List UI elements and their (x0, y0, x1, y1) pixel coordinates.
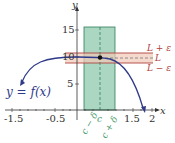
c-label: c (97, 114, 102, 124)
x-tick-label: 2 (149, 113, 155, 124)
y-axis-label: y (71, 0, 78, 10)
curve-right-arrow-icon (141, 106, 146, 113)
x-tick-label: -1.5 (4, 113, 23, 124)
x-axis-label: x (160, 105, 166, 116)
y-tick-label: 5 (67, 78, 73, 89)
limit-label: L (154, 53, 161, 63)
y-tick-label: 10 (62, 51, 75, 62)
limit-point (98, 55, 102, 59)
function-curve (22, 57, 143, 108)
y-tick-label: 15 (62, 24, 75, 35)
epsilon-delta-diagram: -1.5 -0.5 1.5 2 15 10 5 x y y = f(x) L +… (0, 0, 175, 143)
x-tick-label: -0.5 (46, 113, 65, 124)
function-label: y = f(x) (5, 85, 51, 99)
x-tick-label: 1.5 (124, 113, 140, 124)
epsilon-band (65, 53, 153, 63)
delta-band (84, 27, 115, 110)
epsilon-upper-label: L + ε (146, 43, 171, 53)
delta-right-label: c + δ (99, 114, 120, 140)
epsilon-lower-label: L − ε (146, 63, 171, 73)
